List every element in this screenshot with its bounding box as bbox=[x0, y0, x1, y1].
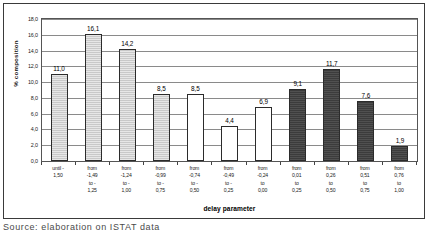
bar[interactable] bbox=[357, 101, 374, 161]
bar[interactable] bbox=[119, 49, 136, 161]
y-tick-label: 6,0 bbox=[31, 111, 38, 117]
x-tick-mark bbox=[246, 162, 247, 165]
x-tick-mark bbox=[41, 162, 42, 165]
bar[interactable] bbox=[51, 74, 68, 161]
x-tick-label: from-0,74to -0,50 bbox=[177, 165, 211, 195]
bar-value-label: 8,5 bbox=[191, 85, 200, 92]
y-tick-label: 14,0 bbox=[28, 48, 38, 54]
bar[interactable] bbox=[391, 146, 408, 161]
y-tick-label: 12,0 bbox=[28, 63, 38, 69]
x-tick-label: from0,01to0,25 bbox=[280, 165, 314, 195]
bar-value-label: 11,7 bbox=[326, 60, 338, 67]
y-tick-label: 4,0 bbox=[31, 126, 38, 132]
y-axis-tick-labels: 18,016,014,012,010,08,06,04,02,00,0 bbox=[12, 18, 40, 162]
bar[interactable] bbox=[323, 69, 340, 161]
x-tick-mark bbox=[177, 162, 178, 165]
x-tick-mark bbox=[348, 162, 349, 165]
bar[interactable] bbox=[85, 34, 102, 161]
x-tick-label: from-0,24to0,00 bbox=[246, 165, 280, 195]
x-tick-mark bbox=[109, 162, 110, 165]
x-tick-mark bbox=[280, 162, 281, 165]
bar[interactable] bbox=[221, 126, 238, 161]
bar-value-label: 8,5 bbox=[157, 85, 166, 92]
y-tick-label: 18,0 bbox=[28, 16, 38, 22]
bar[interactable] bbox=[153, 94, 170, 161]
chart-frame: % composition 18,016,014,012,010,08,06,0… bbox=[3, 3, 425, 219]
bar-value-label: 1,9 bbox=[396, 137, 405, 144]
bar-value-label: 9,1 bbox=[293, 80, 302, 87]
bar-value-label: 6,9 bbox=[259, 98, 268, 105]
x-tick-mark bbox=[382, 162, 383, 165]
bar-value-label: 7,6 bbox=[362, 92, 371, 99]
x-tick-label: until -1,50 bbox=[41, 165, 75, 180]
x-tick-mark bbox=[314, 162, 315, 165]
y-tick-label: 2,0 bbox=[31, 142, 38, 148]
x-tick-mark bbox=[416, 162, 417, 165]
x-tick-label: from0,51to0,75 bbox=[348, 165, 382, 195]
bar-value-label: 14,2 bbox=[121, 40, 133, 47]
x-tick-label: from-0,99to -0,75 bbox=[143, 165, 177, 195]
x-tick-label: from-1,24to -1,00 bbox=[109, 165, 143, 195]
x-tick-label: from-0,49to -0,25 bbox=[212, 165, 246, 195]
chart-screenshot: % composition 18,016,014,012,010,08,06,0… bbox=[0, 0, 428, 234]
bar[interactable] bbox=[289, 89, 306, 161]
x-tick-mark bbox=[143, 162, 144, 165]
bar-value-label: 11,0 bbox=[53, 65, 65, 72]
y-tick-label: 10,0 bbox=[28, 79, 38, 85]
x-axis-title: delay parameter bbox=[41, 205, 418, 212]
x-tick-label: from0,26to0,50 bbox=[314, 165, 348, 195]
x-tick-mark bbox=[75, 162, 76, 165]
bar[interactable] bbox=[187, 94, 204, 161]
x-tick-label: from0,76to1,00 bbox=[382, 165, 416, 195]
gridline bbox=[42, 19, 417, 20]
figure-caption: Source: elaboration on ISTAT data bbox=[3, 222, 160, 234]
y-tick-label: 16,0 bbox=[28, 32, 38, 38]
x-tick-label: from-1,49to -1,25 bbox=[75, 165, 109, 195]
x-tick-mark bbox=[211, 162, 212, 165]
plot-area: 11,016,114,28,58,54,46,99,111,77,61,9 bbox=[41, 18, 418, 162]
y-tick-label: 8,0 bbox=[31, 95, 38, 101]
x-axis-tick-labels: until -1,50from-1,49to -1,25from-1,24to … bbox=[41, 165, 418, 203]
bar-value-label: 16,1 bbox=[87, 25, 99, 32]
bar[interactable] bbox=[255, 107, 272, 161]
y-tick-label: 0,0 bbox=[31, 158, 38, 164]
bar-value-label: 4,4 bbox=[225, 117, 234, 124]
